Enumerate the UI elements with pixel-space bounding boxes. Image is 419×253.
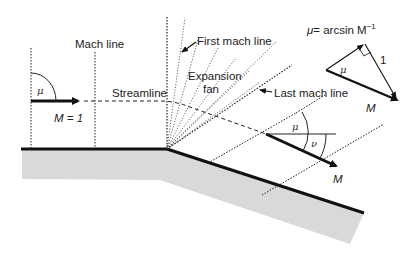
inflow-mach-label: M = 1 — [54, 112, 83, 124]
streamline — [84, 101, 266, 134]
mu-arc-inflow — [31, 73, 56, 101]
nu-arc — [319, 134, 326, 160]
formula-exponent: −1 — [367, 22, 377, 31]
triangle-mu-label: μ — [340, 64, 347, 75]
streamline-label: Streamline — [112, 87, 167, 99]
mu-label-outflow: μ — [292, 121, 299, 132]
mach-line-label: Mach line — [75, 38, 124, 50]
triangle-opposite-arrow — [365, 44, 396, 98]
downstream-mach-line-1 — [208, 113, 296, 163]
downstream-mach-line-3 — [233, 128, 296, 131]
last-mach-line-pointer — [260, 90, 272, 92]
mu-formula: μ= arcsin M−1 — [306, 22, 376, 36]
triangle-side-label: 1 — [380, 54, 386, 66]
last-mach-line-label: Last mach line — [274, 87, 348, 99]
first-mach-line-pointer — [182, 42, 196, 52]
expansion-fan-label-1: Expansion — [188, 70, 242, 82]
expansion-fan-diagram: Mach line Streamline First mach line Exp… — [0, 0, 419, 253]
formula-rest: = arcsin M — [313, 24, 366, 36]
expansion-fan-label-2: fan — [203, 83, 219, 95]
outflow-mach-label: M — [333, 173, 343, 185]
mu-label-inflow: μ — [37, 85, 44, 96]
first-mach-line — [167, 18, 185, 149]
triangle-M-label: M — [366, 102, 376, 114]
first-mach-line-label: First mach line — [197, 35, 272, 47]
nu-label: ν — [311, 138, 317, 149]
mu-arc-outflow — [302, 112, 308, 151]
